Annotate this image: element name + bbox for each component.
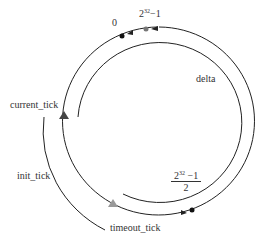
fraction-denominator: 2 xyxy=(171,182,201,193)
outer-circle xyxy=(62,27,254,215)
current-tick-label: current_tick xyxy=(10,99,58,110)
half-dot xyxy=(190,208,195,213)
half-range-fraction: 232 −1 2 xyxy=(171,170,201,193)
tick-wraparound-diagram: 0 232−1 delta current_tick init_tick tim… xyxy=(0,0,267,244)
max-value-label: 232−1 xyxy=(139,8,161,19)
init-tick-arc xyxy=(43,117,105,230)
timeout-tick-label: timeout_tick xyxy=(110,222,161,233)
current-tick-marker-icon xyxy=(59,111,69,119)
timeout-tick-marker-icon xyxy=(108,199,118,207)
fraction-numerator: 232 −1 xyxy=(171,170,201,182)
init-tick-label: init_tick xyxy=(17,170,50,181)
diagram-canvas xyxy=(0,0,267,244)
delta-label: delta xyxy=(196,73,215,84)
max-tail: −1 xyxy=(150,8,161,19)
zero-label: 0 xyxy=(112,17,117,28)
delta-arc xyxy=(78,43,242,203)
zero-dot xyxy=(120,34,125,39)
num-tail: −1 xyxy=(185,170,198,181)
max-dot xyxy=(144,27,149,32)
